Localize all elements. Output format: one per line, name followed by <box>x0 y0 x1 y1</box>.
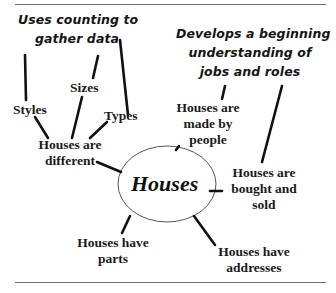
annotation-counting-line1: Uses counting to <box>18 10 136 29</box>
annotation-counting-line2: gather data <box>18 29 136 48</box>
center-label: Houses <box>131 171 198 197</box>
node-addresses-line2: addresses <box>210 260 298 276</box>
node-made-by-people-line2: made by <box>170 116 246 132</box>
annotation-jobs-line3: jobs and roles <box>176 62 324 81</box>
connector-counting-types <box>120 40 128 115</box>
connector-counting-sizes <box>93 56 98 78</box>
connector-styles-different <box>35 117 48 138</box>
node-made-by-people-line1: Houses are <box>170 100 246 116</box>
node-addresses-line1: Houses have <box>210 244 298 260</box>
node-styles: Styles <box>13 102 47 118</box>
connector-jobs-madeby <box>222 86 225 99</box>
node-houses-different-line2: different <box>30 153 110 169</box>
node-houses-made-by-people: Houses are made by people <box>170 100 246 148</box>
node-houses-different: Houses are different <box>30 137 110 169</box>
node-houses-have-addresses: Houses have addresses <box>210 244 298 276</box>
concept-web-diagram: Uses counting to gather data Develops a … <box>0 0 336 293</box>
connector-types-different <box>90 122 107 138</box>
connector-sizes-different <box>72 97 82 138</box>
node-bought-sold-line2: bought and <box>224 181 304 197</box>
annotation-jobs-line2: understanding of <box>176 43 324 62</box>
node-parts-line1: Houses have <box>70 235 156 251</box>
connector-parts-center <box>122 216 130 233</box>
annotation-jobs: Develops a beginning understanding of jo… <box>176 24 324 81</box>
annotation-counting: Uses counting to gather data <box>18 10 136 48</box>
connector-counting-styles <box>25 55 26 100</box>
node-houses-different-line1: Houses are <box>30 137 110 153</box>
node-bought-sold-line3: sold <box>224 197 304 213</box>
node-bought-sold-line1: Houses are <box>224 165 304 181</box>
node-made-by-people-line3: people <box>170 132 246 148</box>
node-houses-bought-sold: Houses are bought and sold <box>224 165 304 213</box>
connector-jobs-bought <box>262 86 282 162</box>
node-types: Types <box>104 108 138 124</box>
node-houses-have-parts: Houses have parts <box>70 235 156 267</box>
node-parts-line2: parts <box>70 251 156 267</box>
node-sizes: Sizes <box>70 80 99 96</box>
connector-addresses-center <box>194 216 215 245</box>
annotation-jobs-line1: Develops a beginning <box>176 24 324 43</box>
